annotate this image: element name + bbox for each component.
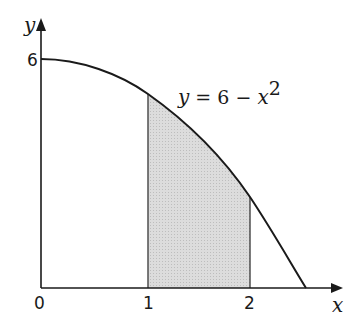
x-tick-1: 1 [143, 293, 154, 313]
curve-equation: y = 6 − x2 [177, 77, 281, 109]
diagram-canvas: y x 6 0 1 2 y = 6 − x2 [0, 0, 361, 332]
x-axis-arrow-icon [331, 283, 343, 293]
y-axis-label: y [23, 13, 36, 37]
origin-label: 0 [34, 293, 45, 313]
eq-x: x [257, 85, 268, 109]
x-tick-2: 2 [244, 293, 255, 313]
eq-middle: = 6 − [189, 86, 257, 108]
shaded-region [148, 94, 250, 288]
y-tick-6: 6 [27, 50, 38, 70]
x-axis-label: x [332, 293, 343, 317]
eq-y: y [177, 85, 190, 109]
y-axis-arrow-icon [36, 18, 46, 31]
eq-exponent: 2 [269, 77, 281, 99]
